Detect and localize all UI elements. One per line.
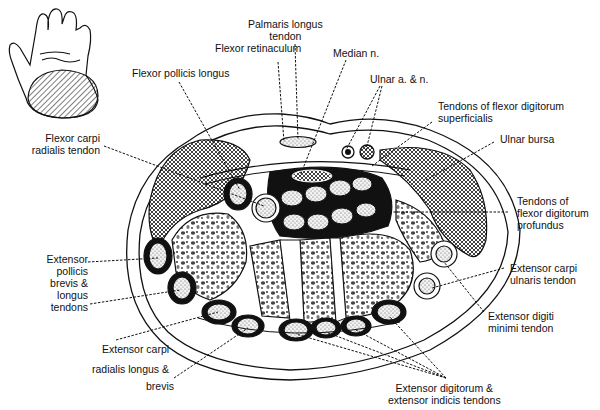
- label-ed-ei-tendons: Extensor digitorum & extensor indicis te…: [388, 382, 501, 406]
- label-fcr-tendon: Flexor carpi radialis tendon: [28, 132, 100, 156]
- label-ulnar-bursa: Ulnar bursa: [500, 133, 554, 145]
- fcr-tendon: [224, 178, 252, 210]
- hand-inset-icon: [9, 9, 98, 118]
- label-flexor-retinaculum: Flexor retinaculum: [215, 42, 301, 54]
- fpl-tendon: [252, 194, 280, 222]
- label-fds-tendons: Tendons of flexor digitorum superficiali…: [438, 100, 564, 124]
- label-median-nerve: Median n.: [333, 47, 379, 59]
- label-ecrl-ecrb-line3: brevis: [146, 380, 174, 392]
- ulnar-nerve: [360, 145, 374, 159]
- anatomy-drawing: [0, 0, 600, 410]
- wrist-cross-section-diagram: Palmaris longus tendon Flexor retinaculu…: [0, 0, 600, 410]
- label-ecrl-ecrb-line2: radialis longus &: [92, 363, 169, 375]
- median-nerve: [292, 170, 332, 182]
- label-palmaris-longus-tendon: Palmaris longus tendon: [248, 18, 323, 42]
- label-edm-tendon: Extensor digiti minimi tendon: [488, 310, 554, 334]
- label-ecu-tendon: Extensor carpi ulnaris tendon: [510, 262, 577, 286]
- label-flexor-pollicis-longus: Flexor pollicis longus: [132, 67, 229, 79]
- label-ecrl-ecrb-line1: Extensor carpi: [102, 343, 169, 355]
- label-ulnar-artery-nerve: Ulnar a. & n.: [370, 73, 428, 85]
- label-fdp-tendons: Tendons of flexor digitorum profundus: [517, 195, 589, 231]
- label-epb-epl-tendons: Extensor pollicis brevis & longus tendon…: [20, 253, 88, 313]
